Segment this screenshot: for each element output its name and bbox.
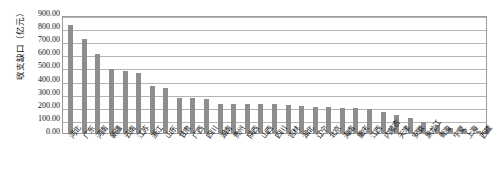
y-axis-tick: 100.00 xyxy=(38,115,60,123)
bar-series xyxy=(63,17,486,133)
bar xyxy=(123,71,128,133)
y-axis-tick: 200.00 xyxy=(38,102,60,110)
bar xyxy=(150,86,155,133)
y-axis-tick: 500.00 xyxy=(38,62,60,70)
bar xyxy=(68,25,73,133)
x-axis-tick-labels: 河北广东河南新疆云南江苏浙江山东甘肃广西四川湖南贵州陕西山西四川吉林湖北辽宁北京… xyxy=(62,136,487,190)
y-axis-tick: 300.00 xyxy=(38,89,60,97)
bar xyxy=(82,39,87,133)
y-axis-tick: 900.00 xyxy=(38,10,60,18)
bar xyxy=(163,88,168,133)
y-axis-tick-labels: 900.00800.00700.00600.00500.00400.00300.… xyxy=(16,14,60,134)
y-axis-tick: 700.00 xyxy=(38,36,60,44)
y-axis-tick: 0.00 xyxy=(46,128,60,136)
bar xyxy=(109,69,114,133)
bar-chart: 收支缺口（亿元） 900.00800.00700.00600.00500.004… xyxy=(0,0,496,190)
bar xyxy=(95,54,100,133)
plot-area xyxy=(62,16,487,134)
bar xyxy=(136,73,141,133)
y-axis-tick: 400.00 xyxy=(38,76,60,84)
y-axis-tick: 800.00 xyxy=(38,23,60,31)
y-axis-tick: 600.00 xyxy=(38,49,60,57)
